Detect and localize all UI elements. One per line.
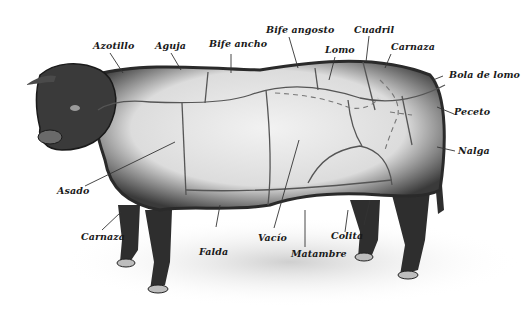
cow-eye	[70, 105, 80, 111]
label-vacio: Vacío	[258, 232, 287, 243]
label-falda: Falda	[199, 246, 228, 257]
label-aguja: Aguja	[155, 40, 186, 51]
label-nalga: Nalga	[458, 145, 490, 156]
label-matambre: Matambre	[291, 248, 347, 259]
label-peceto: Peceto	[454, 106, 490, 117]
label-azotillo: Azotillo	[93, 40, 134, 51]
label-bife-ancho: Bife ancho	[209, 38, 267, 49]
cow-snout	[38, 130, 62, 144]
label-bife-angosto: Bife angosto	[266, 24, 334, 35]
label-asado: Asado	[57, 185, 89, 196]
label-colita: Colita	[331, 230, 363, 241]
label-cuadril: Cuadril	[354, 24, 394, 35]
cow-body	[92, 61, 444, 210]
label-carnaza-top: Carnaza	[391, 41, 435, 52]
label-lomo: Lomo	[325, 44, 355, 55]
beef-cuts-diagram: Azotillo Aguja Bife ancho Bife angosto L…	[0, 0, 521, 315]
label-bola-de-lomo: Bola de lomo	[449, 69, 520, 80]
label-carnaza-bottom: Carnaza	[81, 231, 125, 242]
